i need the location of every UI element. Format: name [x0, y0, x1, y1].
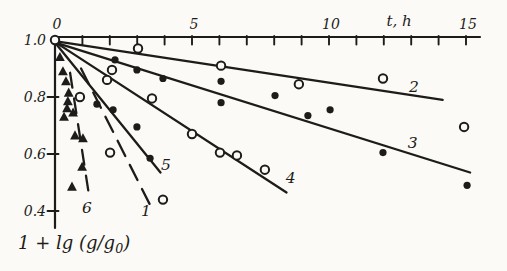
series-2-point [134, 44, 142, 52]
series-5-point [146, 155, 153, 162]
x-tick-label: 15 [459, 16, 477, 32]
series-3-point [111, 56, 118, 63]
y-tick-label: 0.4 [24, 203, 46, 219]
series-5-label: 5 [161, 156, 171, 174]
series-5-point [109, 106, 116, 113]
series-2-point [379, 74, 387, 82]
series-4-point [188, 130, 196, 138]
series-3-point [133, 66, 140, 73]
series-5-point [93, 101, 100, 108]
series-1-label: 1 [141, 202, 151, 220]
y-tick-label: 1.0 [24, 32, 46, 48]
series-2-point [295, 80, 303, 88]
series-6-point [58, 66, 68, 75]
series-4-point [148, 94, 156, 102]
series-2-label: 2 [408, 78, 419, 96]
series-1-point [76, 93, 84, 101]
series-3-point [271, 92, 278, 99]
series-6-point [63, 96, 73, 105]
series-3-point [379, 149, 386, 156]
y-axis-title: 1 + lg (g/g0) [18, 232, 130, 256]
figure-canvas: 051015t, h1.00.80.60.41 + lg (g/g0)12345… [0, 0, 507, 271]
x-tick-label: 10 [322, 16, 340, 32]
series-3-point [304, 112, 311, 119]
series-3-point [159, 75, 166, 82]
series-2-point [460, 123, 468, 131]
series-4-point [233, 151, 241, 159]
series-3-point [217, 78, 224, 85]
y-tick-label: 0.8 [24, 89, 46, 105]
x-axis-title: t, h [386, 12, 411, 30]
series-4-label: 4 [285, 169, 296, 187]
series-3-label: 3 [408, 134, 418, 152]
series-4-point [261, 165, 269, 173]
series-6-point [64, 88, 74, 97]
series-4-point [103, 76, 111, 84]
x-tick-label: 0 [53, 16, 62, 32]
series-3-point [326, 106, 333, 113]
series-3-point [217, 99, 224, 106]
series-6-label: 6 [82, 199, 92, 217]
series-4-point [108, 66, 116, 74]
series-2-point [51, 36, 59, 44]
series-1-point [106, 148, 114, 156]
series-6-point [59, 112, 69, 121]
series-1-point [159, 195, 167, 203]
series-2-point [217, 61, 225, 69]
x-tick-label: 5 [190, 16, 199, 32]
series-4-trend-line [56, 43, 286, 193]
series-4-point [216, 148, 224, 156]
series-6-point [67, 182, 77, 191]
series-3-trend-line [56, 43, 470, 173]
series-6-point [77, 162, 87, 171]
series-3-point [463, 182, 470, 189]
decay-curves-plot: 051015t, h1.00.80.60.41 + lg (g/g0)12345… [0, 0, 507, 271]
y-tick-label: 0.6 [24, 146, 46, 162]
series-5-point [133, 123, 140, 130]
series-6-point [61, 76, 71, 85]
